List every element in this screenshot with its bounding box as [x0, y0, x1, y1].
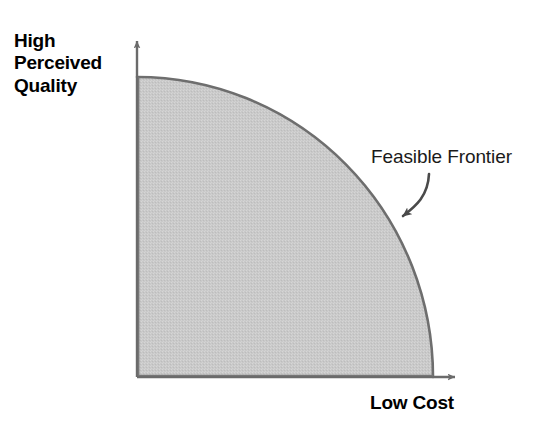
y-axis-label: High Perceived Quality — [14, 30, 129, 97]
feasible-frontier-label: Feasible Frontier — [371, 146, 512, 168]
x-axis-label: Low Cost — [370, 392, 454, 414]
figure-canvas: High Perceived Quality Low Cost Feasible… — [0, 0, 546, 424]
feasible-region-fill — [137, 77, 433, 377]
annotation-arrow — [403, 174, 429, 216]
